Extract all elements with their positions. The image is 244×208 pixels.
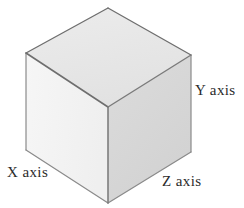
y-axis-label: Y axis [195, 83, 236, 98]
x-axis-label: X axis [7, 165, 48, 180]
z-axis-label: Z axis [162, 174, 201, 189]
cube-axes-figure: X axis Y axis Z axis [0, 0, 244, 208]
